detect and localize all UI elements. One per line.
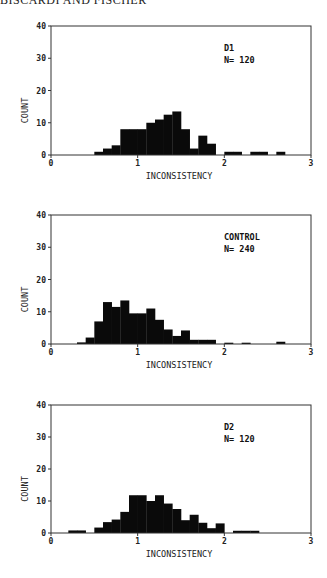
x-tick-label: 2 [222,348,227,357]
y-tick-label: 40 [36,401,46,410]
histogram-bar [207,144,216,155]
histogram-bar [120,512,129,533]
y-tick-label: 30 [36,54,46,63]
histogram-bar [164,329,173,344]
x-axis-label: INCONSISTENCY [146,360,213,370]
histogram-bars [68,495,259,533]
group-label: D2 [224,422,234,432]
histogram-bar [146,123,155,155]
histogram-bar [207,528,216,533]
x-tick-label: 1 [135,537,140,546]
histogram-bar [129,129,138,155]
x-tick-label: 3 [309,348,314,357]
x-axis-label: INCONSISTENCY [146,549,213,559]
y-axis-label: COUNT [20,98,30,124]
histogram-bar [207,340,216,344]
y-tick-label: 0 [41,151,46,160]
x-tick-label: 0 [49,348,54,357]
histogram-control-svg: 0102030400123INCONSISTENCYCOUNTCONTROLN=… [0,200,327,390]
y-tick-label: 30 [36,433,46,442]
histogram-bar [198,136,207,155]
y-tick-label: 0 [41,340,46,349]
histogram-bar [86,338,95,344]
y-tick-label: 10 [36,497,46,506]
histogram-bar [129,313,138,344]
x-tick-label: 1 [135,348,140,357]
histogram-bar [198,523,207,533]
plot-frame [51,215,311,344]
histogram-bar [120,129,129,155]
histogram-bar [94,528,103,533]
histogram-bar [112,145,121,155]
x-tick-label: 0 [49,159,54,168]
histogram-bar [103,302,112,344]
histogram-bar [181,520,190,533]
histogram-bar [103,522,112,533]
histogram-bar [103,149,112,155]
histogram-bar [138,129,147,155]
histogram-bar [216,523,225,533]
histogram-bar [172,509,181,533]
y-tick-label: 30 [36,243,46,252]
histogram-bar [198,340,207,344]
histogram-bar [120,300,129,344]
x-tick-label: 3 [309,537,314,546]
y-tick-label: 20 [36,276,46,285]
histogram-bar [155,320,164,344]
y-tick-label: 40 [36,22,46,31]
histogram-bar [138,313,147,344]
histogram-bar [172,336,181,344]
y-axis-label: COUNT [20,287,30,313]
x-tick-label: 2 [222,159,227,168]
histogram-d2-svg: 0102030400123INCONSISTENCYCOUNTD2N= 120 [0,390,327,578]
sample-size-label: N= 120 [224,55,255,65]
y-tick-label: 10 [36,119,46,128]
x-tick-label: 2 [222,537,227,546]
histogram-bar [164,115,173,155]
histogram-bar [155,495,164,533]
histogram-bar [190,340,199,344]
sample-size-label: N= 120 [224,434,255,444]
y-tick-label: 10 [36,308,46,317]
y-tick-label: 40 [36,211,46,220]
sample-size-label: N= 240 [224,244,255,254]
histogram-bar [164,504,173,533]
histogram-d1-svg: 0102030400123INCONSISTENCYCOUNTD1N= 120 [0,0,327,200]
histogram-bars [77,300,285,344]
histogram-bar [190,149,199,155]
y-tick-label: 20 [36,465,46,474]
histogram-bar [112,520,121,533]
histogram-control: 0102030400123INCONSISTENCYCOUNTCONTROLN=… [0,200,327,390]
histogram-bar [172,111,181,155]
x-tick-label: 1 [135,159,140,168]
y-axis-label: COUNT [20,476,30,502]
histogram-d1: 0102030400123INCONSISTENCYCOUNTD1N= 120 [0,0,327,200]
histogram-bar [94,321,103,344]
x-tick-label: 3 [309,159,314,168]
histogram-d2: 0102030400123INCONSISTENCYCOUNTD2N= 120 [0,390,327,578]
y-tick-label: 0 [41,529,46,538]
histogram-bar [181,330,190,344]
x-axis-label: INCONSISTENCY [146,171,213,181]
y-tick-label: 20 [36,87,46,96]
x-tick-label: 0 [49,537,54,546]
histogram-bar [181,129,190,155]
histogram-bar [129,495,138,533]
histogram-bar [146,501,155,533]
histogram-bars [94,111,285,155]
histogram-bar [138,495,147,533]
histogram-bar [190,515,199,533]
group-label: CONTROL [224,232,260,242]
group-label: D1 [224,43,234,53]
histogram-bar [146,309,155,344]
histogram-bar [155,120,164,155]
histogram-bar [112,307,121,344]
